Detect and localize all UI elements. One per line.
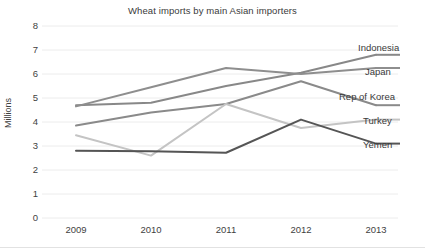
series-label-yemen: Yemen (363, 139, 392, 150)
wheat-imports-line-chart: Wheat imports by main Asian importers Mi… (0, 0, 425, 250)
bottom-divider (0, 247, 425, 248)
series-label-japan: Japan (365, 66, 391, 77)
series-label-turkey: Turkey (363, 115, 392, 126)
plot-area (0, 0, 425, 250)
series-line-group (76, 55, 400, 156)
series-label-rep-of-korea: Rep of Korea (339, 91, 395, 102)
series-label-indonesia: Indonesia (358, 42, 399, 53)
